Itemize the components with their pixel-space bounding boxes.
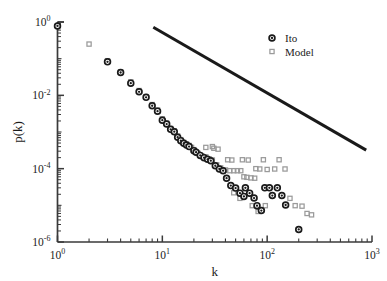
data-point-model bbox=[288, 196, 292, 200]
data-point-ito-core bbox=[119, 71, 121, 73]
data-point-ito-core bbox=[256, 205, 258, 207]
data-point-model bbox=[300, 204, 304, 208]
data-point-ito-core bbox=[214, 165, 216, 167]
legend[interactable]: ItoModel bbox=[269, 32, 314, 58]
data-point-ito-core bbox=[161, 119, 163, 121]
data-point-ito-core bbox=[173, 131, 175, 133]
data-point-ito-core bbox=[234, 187, 236, 189]
data-point-model bbox=[204, 145, 208, 149]
x-tick-label: 103 bbox=[364, 247, 380, 261]
data-point-ito-core bbox=[260, 209, 262, 211]
data-point-ito-core bbox=[230, 184, 232, 186]
data-point-model bbox=[265, 167, 269, 171]
data-point-ito-core bbox=[248, 192, 250, 194]
data-point-ito-core bbox=[239, 192, 241, 194]
legend-label-ito[interactable]: Ito bbox=[285, 32, 298, 44]
data-point-model bbox=[87, 42, 91, 46]
data-point-model bbox=[309, 213, 313, 217]
x-tick-label: 100 bbox=[50, 247, 66, 261]
data-point-ito-core bbox=[145, 96, 147, 98]
data-point-model bbox=[240, 158, 244, 162]
x-tick-label: 102 bbox=[259, 247, 275, 261]
axis-layer bbox=[58, 22, 373, 242]
x-axis-title: k bbox=[212, 264, 219, 279]
data-point-ito-core bbox=[271, 37, 273, 39]
data-point-ito-core bbox=[130, 82, 132, 84]
data-point-model bbox=[246, 158, 250, 162]
data-point-ito-core bbox=[151, 105, 153, 107]
data-point-model bbox=[216, 147, 220, 151]
power-law-reference-line bbox=[153, 27, 366, 150]
data-point-ito-core bbox=[281, 194, 283, 196]
data-point-ito-core bbox=[284, 204, 286, 206]
y-tick-label: 10-4 bbox=[32, 161, 50, 175]
data-point-ito-core bbox=[268, 187, 270, 189]
data-point-ito-core bbox=[156, 110, 158, 112]
data-point-ito-core bbox=[138, 91, 140, 93]
data-point-ito-core bbox=[244, 187, 246, 189]
data-point-model bbox=[283, 167, 287, 171]
data-point-ito-core bbox=[276, 187, 278, 189]
reference-line-layer bbox=[153, 27, 366, 150]
data-point-ito-core bbox=[298, 228, 300, 230]
data-point-model bbox=[305, 211, 309, 215]
series-ito-points bbox=[55, 23, 302, 232]
scatter-plot: 10010110210310010-210-410-6kp(k) ItoMode… bbox=[0, 0, 387, 281]
y-tick-label: 10-2 bbox=[32, 88, 50, 102]
data-point-ito-core bbox=[253, 197, 255, 199]
data-point-ito-core bbox=[166, 123, 168, 125]
data-point-model bbox=[263, 204, 267, 208]
data-point-ito-core bbox=[264, 187, 266, 189]
data-point-ito-core bbox=[222, 170, 224, 172]
figure-container: 10010110210310010-210-410-6kp(k) ItoMode… bbox=[0, 0, 387, 281]
data-point-model bbox=[273, 167, 277, 171]
data-point-ito-core bbox=[106, 61, 108, 63]
data-point-ito-core bbox=[210, 160, 212, 162]
data-point-ito-core bbox=[271, 194, 273, 196]
data-point-ito-core bbox=[56, 25, 58, 27]
y-axis-title: p(k) bbox=[10, 121, 25, 143]
data-point-model bbox=[270, 49, 274, 53]
legend-label-model[interactable]: Model bbox=[285, 46, 314, 58]
y-tick-label: 100 bbox=[35, 14, 51, 28]
x-tick-label: 101 bbox=[155, 247, 171, 261]
data-point-model bbox=[261, 158, 265, 162]
data-point-model bbox=[293, 204, 297, 208]
axis-labels-layer: 10010110210310010-210-410-6kp(k) bbox=[10, 14, 380, 279]
data-point-ito-core bbox=[188, 145, 190, 147]
data-point-ito-core bbox=[243, 195, 245, 197]
y-tick-label: 10-6 bbox=[32, 234, 50, 248]
data-point-ito-core bbox=[225, 177, 227, 179]
data-point-model bbox=[277, 158, 281, 162]
data-point-ito-core bbox=[195, 151, 197, 153]
